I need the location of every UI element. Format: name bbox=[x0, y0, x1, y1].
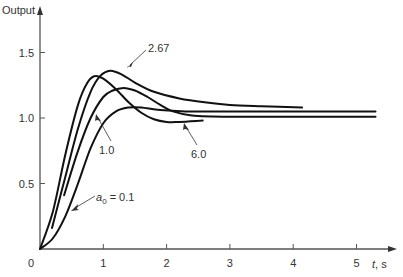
annotation-2-67: 2.67 bbox=[127, 42, 169, 68]
origin-label: 0 bbox=[28, 257, 34, 269]
arrowhead-icon bbox=[71, 204, 79, 211]
annotation-6-0: 6.0 bbox=[183, 123, 206, 160]
x-axis-title: t, s bbox=[372, 258, 387, 270]
y-tick-label: 0.5 bbox=[19, 178, 34, 190]
label-a0-0-1: a0 = 0.1 bbox=[96, 191, 134, 206]
curves bbox=[40, 71, 376, 249]
y-tick-label: 1.0 bbox=[19, 112, 34, 124]
annotation-0-1: a0 = 0.1 bbox=[71, 191, 134, 211]
x-tick-label: 5 bbox=[353, 257, 359, 269]
axes bbox=[37, 6, 397, 252]
step-response-chart: 123450.51.01.5 Output t, s 0 2.67 1.0 6.… bbox=[0, 0, 403, 277]
y-tick-label: 1.5 bbox=[19, 47, 34, 59]
x-tick-label: 2 bbox=[164, 257, 170, 269]
label-6-0: 6.0 bbox=[191, 148, 206, 160]
y-axis-arrow-icon bbox=[37, 6, 43, 15]
annotation-leader bbox=[75, 196, 95, 208]
arrowhead-icon bbox=[127, 62, 133, 68]
x-tick-label: 1 bbox=[100, 257, 106, 269]
x-axis-title-unit: , s bbox=[375, 258, 387, 270]
y-axis-title: Output bbox=[2, 4, 35, 16]
chart-canvas: 123450.51.01.5 Output t, s 0 2.67 1.0 6.… bbox=[0, 0, 403, 277]
arrowhead-icon bbox=[183, 123, 189, 130]
x-tick-label: 4 bbox=[290, 257, 296, 269]
label-2-67: 2.67 bbox=[148, 42, 169, 54]
annotation-leader bbox=[186, 127, 197, 145]
label-1-0: 1.0 bbox=[99, 144, 114, 156]
x-axis-arrow-icon bbox=[388, 246, 397, 252]
curve-a0-0-1 bbox=[40, 107, 376, 249]
curve-6-0 bbox=[40, 76, 203, 249]
label-a0-value: = 0.1 bbox=[107, 191, 135, 203]
x-tick-label: 3 bbox=[227, 257, 233, 269]
arrowhead-icon bbox=[95, 114, 101, 121]
